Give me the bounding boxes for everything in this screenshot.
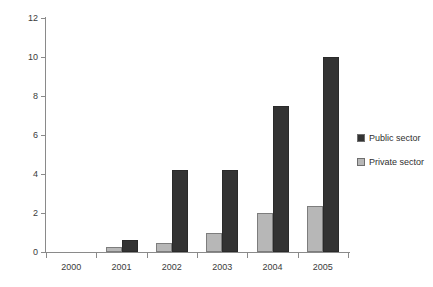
legend-item-public[interactable]: Public sector: [357, 130, 433, 146]
y-axis-tick-label-text: 8: [12, 92, 38, 101]
bar-public-2005: [323, 57, 339, 252]
y-axis-tick-label-text: 0: [12, 248, 38, 257]
y-axis-tick-label: 0: [8, 248, 38, 257]
y-axis-tick-label: 10: [8, 53, 38, 62]
x-axis-tick-label: 2002: [147, 262, 197, 273]
bar-private-2001: [106, 247, 122, 252]
y-axis-tick-label: 2: [8, 209, 38, 218]
cropped-caption-sliver: [0, 0, 433, 4]
legend-item-label: Private sector: [369, 157, 424, 167]
y-axis-tick-label-text: 2: [12, 209, 38, 218]
x-axis-tick: [197, 253, 198, 258]
legend-swatch-icon: [357, 134, 365, 142]
x-axis-tick-label: 2005: [298, 262, 348, 273]
bar-private-2004: [257, 213, 273, 252]
x-axis-tick: [348, 253, 349, 258]
x-axis-tick: [46, 253, 47, 258]
bar-public-2004: [273, 106, 289, 252]
legend-item-label: Public sector: [369, 133, 421, 143]
y-axis-tick-label-text: 4: [12, 170, 38, 179]
bar-public-2003: [222, 170, 238, 252]
y-axis-tick-label: 4: [8, 170, 38, 179]
x-axis-tick-label: 2000: [46, 262, 96, 273]
bar-private-2003: [206, 233, 222, 253]
x-axis-tick: [96, 253, 97, 258]
bar-public-2001: [122, 240, 138, 252]
y-axis-tick-label-text: 10: [12, 53, 38, 62]
bar-public-2002: [172, 170, 188, 252]
x-axis-tick-label: 2003: [197, 262, 247, 273]
plot-area: [46, 18, 348, 252]
y-axis-tick-label: 6: [8, 131, 38, 140]
bar-private-2005: [307, 206, 323, 252]
bar-private-2002: [156, 243, 172, 252]
y-axis-tick-label: 8: [8, 92, 38, 101]
chart-legend: Public sectorPrivate sector: [357, 130, 433, 178]
x-axis-tick-label: 2004: [248, 262, 298, 273]
x-axis-tick: [147, 253, 148, 258]
bar-chart-figure: 024681012 200020012002200320042005 Publi…: [0, 0, 433, 287]
x-axis-tick: [247, 253, 248, 258]
legend-swatch-icon: [357, 158, 365, 166]
y-axis-tick-label: 12: [8, 14, 38, 23]
x-axis-tick-label: 2001: [97, 262, 147, 273]
y-axis-tick-label-text: 12: [12, 14, 38, 23]
x-axis-tick: [298, 253, 299, 258]
y-axis-tick-label-text: 6: [12, 131, 38, 140]
legend-item-private[interactable]: Private sector: [357, 154, 433, 170]
